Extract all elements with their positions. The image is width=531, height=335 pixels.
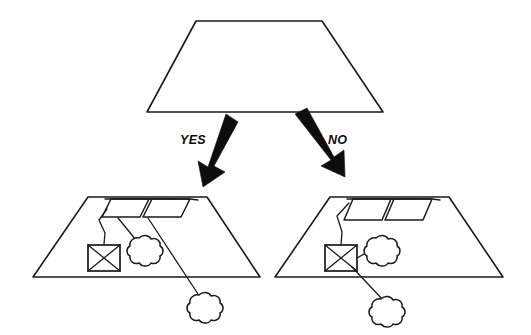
right-box-lead-line [337, 203, 349, 245]
root-trapezoid[interactable] [147, 21, 383, 112]
right-panel-1[interactable] [344, 199, 391, 220]
yes-branch-group[interactable]: YES [180, 114, 238, 187]
right-cloud-lead-line-2 [352, 267, 383, 300]
decision-flow-diagram: YES NO [0, 0, 531, 335]
yes-arrow-icon[interactable] [198, 114, 238, 187]
right-cloud-2[interactable] [369, 296, 405, 327]
left-panel-2[interactable] [143, 199, 190, 217]
left-outcome-group[interactable] [33, 197, 260, 323]
no-branch-label: NO [328, 133, 347, 147]
right-cloud-1[interactable] [364, 235, 400, 266]
right-outcome-group[interactable] [275, 197, 503, 327]
yes-branch-label: YES [180, 133, 206, 147]
right-panel-2[interactable] [385, 199, 432, 220]
left-cloud-lead-line-1 [118, 218, 136, 240]
diagram-canvas: YES NO [0, 0, 531, 335]
left-cloud-1[interactable] [127, 235, 163, 266]
left-panel-1[interactable] [102, 199, 149, 217]
left-crossed-box-group[interactable] [88, 245, 120, 271]
root-node-group[interactable] [147, 21, 383, 112]
left-cloud-2[interactable] [187, 292, 223, 323]
no-branch-group[interactable]: NO [295, 108, 347, 177]
